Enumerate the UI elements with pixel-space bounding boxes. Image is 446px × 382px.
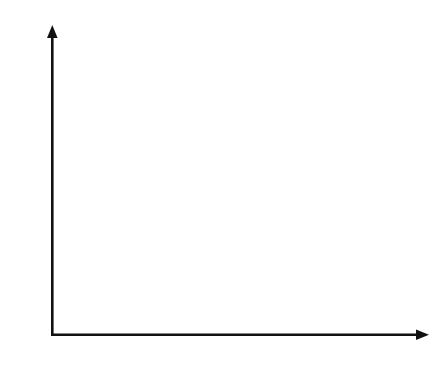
y-axis-arrow-icon [47,25,58,38]
axes [47,25,429,340]
coordinate-grid-figure [0,0,446,382]
x-axis-arrow-icon [416,330,429,340]
